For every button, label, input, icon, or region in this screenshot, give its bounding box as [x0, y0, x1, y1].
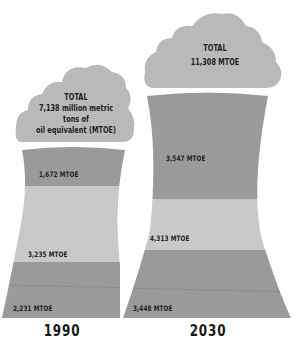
year-label-1990: 1990 [38, 322, 86, 339]
cloud-2030-title: TOTAL [170, 42, 260, 56]
cloud-1990-line1: 7,138 million metric tons of [30, 103, 122, 125]
label-1990-bottom: 2,231 MTOE [13, 304, 52, 313]
cloud-1990-title: TOTAL [30, 92, 122, 103]
year-label-2030: 2030 [184, 322, 232, 339]
segment-2030-middle [120, 199, 300, 250]
segment-1990-middle [0, 186, 140, 262]
label-2030-middle: 4,313 MTOE [150, 234, 189, 243]
label-1990-top: 1,672 MTOE [39, 170, 78, 179]
label-2030-top: 3,547 MTOE [166, 154, 205, 163]
segment-1990-top [0, 140, 140, 186]
tower-1990 [0, 140, 140, 322]
segment-1990-bottom [0, 262, 140, 322]
cloud-1990-text: TOTAL 7,138 million metric tons of oil e… [20, 92, 132, 136]
label-2030-bottom: 3,448 MTOE [133, 304, 172, 313]
cloud-2030-text: TOTAL 11,308 MTOE [160, 42, 270, 70]
tower-2030 [120, 86, 300, 322]
segment-2030-top [120, 86, 300, 199]
label-1990-middle: 3,235 MTOE [28, 250, 67, 259]
cloud-2030-line1: 11,308 MTOE [170, 56, 260, 70]
cloud-1990-line2: oil equivalent (MTOE) [30, 125, 122, 136]
